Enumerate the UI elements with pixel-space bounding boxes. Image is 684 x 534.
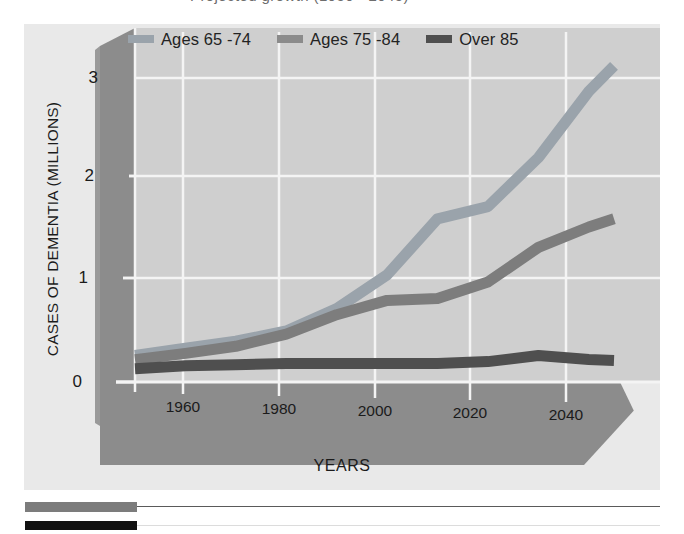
left-wall-highlight <box>95 46 100 426</box>
legend-item-over-85[interactable]: Over 85 <box>426 30 518 49</box>
chart-figure: Ages 65 -74 Ages 75 -84 Over 85 3 2 1 0 … <box>24 24 660 490</box>
decoration-rule-row-2 <box>0 521 684 531</box>
y-tick-label-1: 1 <box>62 268 88 288</box>
x-tick-label-2020: 2020 <box>440 404 500 422</box>
top-caption-text: Projected growth (1950 - 2045) <box>190 0 409 4</box>
legend-swatch-ages-65-74 <box>128 35 154 43</box>
y-tick-label-3: 3 <box>72 68 98 88</box>
legend-swatch-ages-75-84 <box>277 35 303 43</box>
legend-item-ages-65-74[interactable]: Ages 65 -74 <box>128 30 251 49</box>
chart-legend: Ages 65 -74 Ages 75 -84 Over 85 <box>128 27 519 51</box>
legend-label-ages-75-84: Ages 75 -84 <box>310 30 400 49</box>
legend-item-ages-75-84[interactable]: Ages 75 -84 <box>277 30 400 49</box>
x-axis-title: YEARS <box>24 457 660 475</box>
decoration-rule-block-2 <box>25 521 137 530</box>
y-tick-label-2: 2 <box>68 166 94 186</box>
x-tick-label-1960: 1960 <box>153 398 213 416</box>
top-caption-strip: Projected growth (1950 - 2045) <box>0 0 684 14</box>
decoration-rule-line-1 <box>137 506 660 507</box>
legend-label-over-85: Over 85 <box>459 30 518 49</box>
y-axis-title: CASES OF DEMENTIA (MILLIONS) <box>44 79 62 379</box>
legend-label-ages-65-74: Ages 65 -74 <box>161 30 251 49</box>
left-wall-3d <box>100 28 135 426</box>
decoration-rule-block-1 <box>25 502 137 512</box>
plot-area-background <box>135 28 660 382</box>
x-tick-label-2000: 2000 <box>345 402 405 420</box>
x-tick-label-1980: 1980 <box>249 400 309 418</box>
legend-swatch-over-85 <box>426 35 452 43</box>
decoration-rule-row-1 <box>0 502 684 512</box>
decoration-rule-line-2 <box>137 525 660 526</box>
x-tick-label-2040: 2040 <box>536 406 596 424</box>
